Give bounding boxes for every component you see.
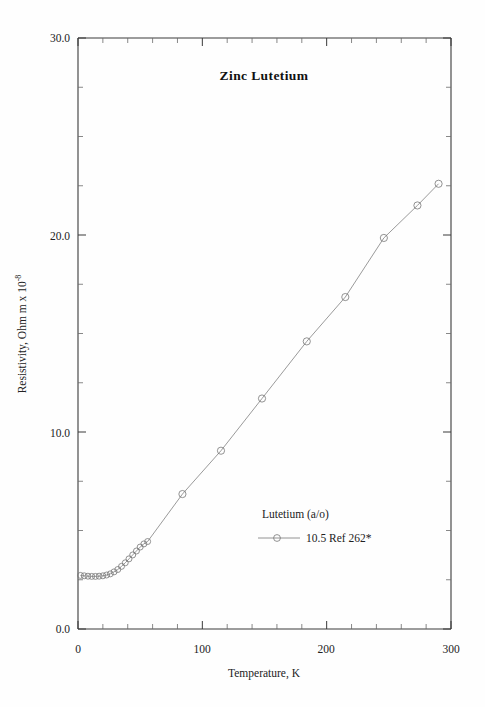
tick-marks [78,38,451,629]
legend-entry-label: 10.5 Ref 262* [306,532,372,544]
y-axis-title-exponent: -8 [14,275,23,282]
data-series-markers [77,180,442,579]
y-tick-labels: 30.0 20.0 10.0 0.0 [50,32,70,635]
y-tick-label-0: 0.0 [56,623,71,635]
legend: Lutetium (a/o) 10.5 Ref 262* [258,508,372,544]
plot-frame [78,38,451,629]
legend-header: Lutetium (a/o) [262,508,329,521]
y-tick-label-10: 10.0 [50,427,70,439]
y-tick-label-20: 20.0 [50,230,70,242]
x-tick-labels: 0 100 200 300 [75,643,460,655]
y-tick-label-30: 30.0 [50,32,70,44]
svg-text:Resistivity, Ohm m x 10-8: Resistivity, Ohm m x 10-8 [14,275,29,394]
x-axis-title: Temperature, K [228,667,301,680]
y-axis-title-main: Resistivity, Ohm m x 10 [16,281,29,393]
resistivity-chart: 30.0 20.0 10.0 0.0 0 100 200 300 Tempera… [0,0,485,707]
x-tick-label-0: 0 [75,643,81,655]
chart-title: Zinc Lutetium [220,68,309,83]
x-tick-label-100: 100 [193,643,211,655]
y-axis-title: Resistivity, Ohm m x 10-8 [14,275,29,394]
x-tick-label-200: 200 [317,643,335,655]
data-series-line [80,184,438,577]
x-tick-label-300: 300 [442,643,460,655]
figure-page: 30.0 20.0 10.0 0.0 0 100 200 300 Tempera… [0,0,485,707]
